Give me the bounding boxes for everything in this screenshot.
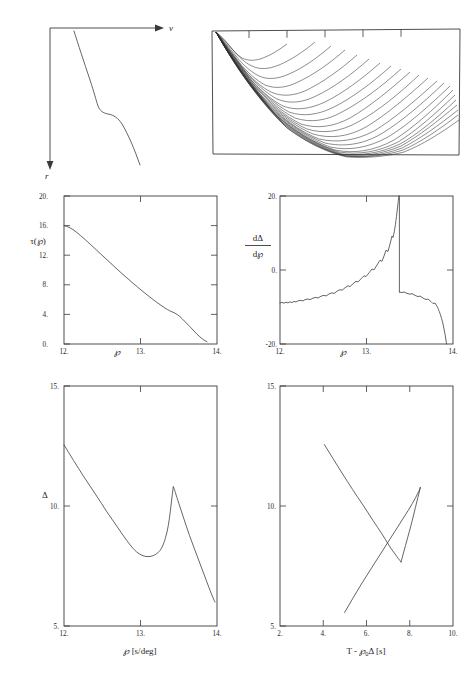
ddelta-y-axis-label: dΔ d℘ bbox=[245, 233, 271, 259]
ddelta-xtick-12: 12. bbox=[276, 348, 285, 356]
reduced-xtick-8: 8. bbox=[407, 630, 413, 638]
delta-ytick-10: 10. bbox=[50, 503, 59, 511]
r-axis-arrowhead bbox=[47, 161, 54, 170]
tau-xtick-12: 12. bbox=[60, 348, 69, 356]
delta-xtick-14: 14. bbox=[213, 630, 222, 638]
surface-family-svg bbox=[211, 22, 461, 162]
reduced-ytick-15: 15. bbox=[267, 383, 276, 391]
reduced-branch-b bbox=[401, 488, 420, 563]
tau-xtick-14: 14. bbox=[213, 348, 222, 356]
panel-delta-vs-reduced-time: 15. 10. 5. 2. 4. 6. 8. 10. T - ℘0Δ [s] bbox=[238, 374, 468, 674]
delta-ytick-15: 15. bbox=[50, 383, 59, 391]
ddelta-xtick-13: 13. bbox=[362, 348, 371, 356]
ddelta-branch-left bbox=[280, 196, 399, 303]
ddelta-label-numerator: dΔ bbox=[253, 233, 264, 243]
ddelta-ytick-0: 0. bbox=[272, 267, 278, 275]
v-axis-arrowhead bbox=[155, 25, 164, 32]
reduced-x-ticks bbox=[323, 386, 410, 626]
figure-root: v r bbox=[0, 0, 471, 683]
reduced-y-ticks bbox=[280, 386, 453, 626]
panel-tau-vs-p: 20. 16. 12. 8. 4. 0. 12. 13. 14. τ(℘) ℘ bbox=[12, 186, 227, 371]
tau-ytick-8: 8. bbox=[43, 281, 49, 289]
r-axis-label: r bbox=[45, 171, 49, 181]
ddelta-y-ticks bbox=[280, 196, 453, 344]
tau-vs-p-svg: 20. 16. 12. 8. 4. 0. 12. 13. 14. τ(℘) ℘ bbox=[12, 186, 227, 371]
reduced-plot-frame bbox=[280, 386, 453, 626]
reduced-x-axis-label: T - ℘0Δ [s] bbox=[346, 646, 385, 657]
schematic-rv-svg: v r bbox=[28, 14, 188, 179]
delta-x-axis-label: ℘ [s/deg] bbox=[123, 646, 156, 656]
delta-vs-reduced-time-svg: 15. 10. 5. 2. 4. 6. 8. 10. T - ℘0Δ [s] bbox=[238, 374, 468, 674]
delta-xtick-12: 12. bbox=[60, 630, 69, 638]
ddelta-x-axis-label: ℘ bbox=[340, 347, 347, 357]
tau-ytick-20: 20. bbox=[39, 193, 48, 201]
tau-ytick-12: 12. bbox=[39, 252, 48, 260]
tau-y-axis-label: τ(℘) bbox=[30, 236, 46, 246]
reduced-xtick-4: 4. bbox=[321, 630, 327, 638]
reduced-xtick-6: 6. bbox=[364, 630, 370, 638]
reduced-xtick-10: 10. bbox=[449, 630, 458, 638]
ddelta-ytick-20: 20. bbox=[268, 193, 277, 201]
reduced-ytick-10: 10. bbox=[267, 503, 276, 511]
delta-vs-p-svg: 15. 10. 5. 12. 13. 14. Δ ℘ [s/deg] bbox=[12, 374, 227, 674]
velocity-profile-curve bbox=[74, 31, 140, 165]
delta-plot-frame bbox=[64, 386, 217, 626]
tau-xtick-13: 13. bbox=[136, 348, 145, 356]
delta-y-axis-label: Δ bbox=[42, 490, 48, 500]
reduced-branch-a bbox=[324, 445, 401, 563]
delta-y-ticks bbox=[64, 386, 217, 626]
panel-delta-vs-p: 15. 10. 5. 12. 13. 14. Δ ℘ [s/deg] bbox=[12, 374, 227, 674]
ddelta-xtick-14: 14. bbox=[449, 348, 458, 356]
ddelta-dp-svg: 20. 0. -20. 12. 13. 14. dΔ d℘ ℘ bbox=[238, 186, 468, 371]
tau-ytick-0: 0. bbox=[43, 341, 49, 349]
delta-xtick-13: 13. bbox=[136, 630, 145, 638]
delta-curve bbox=[64, 445, 215, 602]
tau-ytick-16: 16. bbox=[39, 222, 48, 230]
tau-x-axis-label: ℘ bbox=[114, 347, 121, 357]
ddelta-branch-right bbox=[399, 292, 446, 344]
surface-curve-family bbox=[216, 32, 459, 157]
tau-plot-frame bbox=[64, 196, 217, 344]
tau-y-ticks bbox=[64, 196, 217, 344]
ddelta-plot-frame bbox=[280, 196, 453, 344]
reduced-xtick-2: 2. bbox=[277, 630, 283, 638]
tau-ytick-4: 4. bbox=[43, 311, 49, 319]
delta-ytick-5: 5. bbox=[54, 623, 60, 631]
tau-curve bbox=[64, 226, 207, 342]
reduced-branch-c bbox=[345, 488, 421, 613]
panel-ddelta-dp: 20. 0. -20. 12. 13. 14. dΔ d℘ ℘ bbox=[238, 186, 468, 371]
surface-frame bbox=[212, 29, 460, 155]
v-axis-label: v bbox=[169, 23, 173, 33]
ddelta-label-denominator: d℘ bbox=[253, 249, 264, 259]
reduced-ytick-5: 5. bbox=[271, 623, 277, 631]
panel-schematic-rv: v r bbox=[28, 14, 188, 179]
panel-surface-family bbox=[211, 22, 461, 162]
